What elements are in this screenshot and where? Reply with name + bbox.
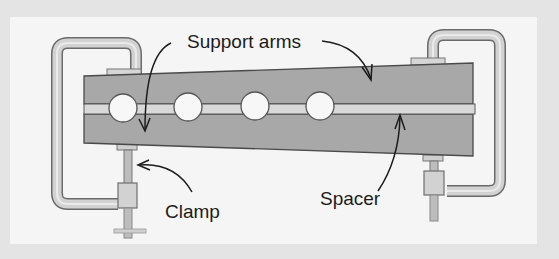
hole-4	[306, 92, 334, 120]
label-support-arms: Support arms	[187, 31, 301, 52]
hole-3	[241, 92, 269, 120]
hole-2	[174, 93, 202, 121]
diagram-canvas: Support arms Clamp Spacer	[0, 0, 559, 259]
hole-1	[109, 94, 137, 122]
support-arms	[84, 63, 475, 156]
label-spacer: Spacer	[320, 188, 381, 209]
support-arm-upper	[84, 63, 473, 104]
label-clamp: Clamp	[165, 201, 220, 222]
support-arm-lower	[84, 114, 473, 156]
spacer	[84, 104, 475, 114]
